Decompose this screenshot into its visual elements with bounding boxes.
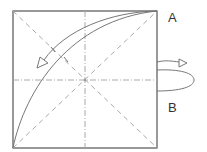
label-b: B — [168, 101, 177, 114]
turn-over-arrow-loop — [157, 70, 194, 91]
fold-arrow-curve — [44, 11, 157, 60]
turn-over-arrow-head-icon — [179, 59, 187, 67]
label-a: A — [168, 11, 177, 24]
fold-arrow-head-icon — [37, 57, 48, 68]
turn-over-arrow-top — [157, 61, 179, 62]
center-point — [84, 79, 87, 82]
